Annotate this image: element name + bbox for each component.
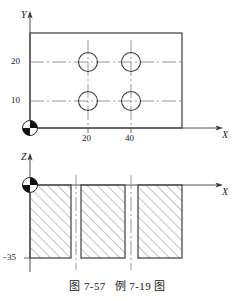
figure-caption: 图 7-57例 7-19 图	[0, 277, 235, 293]
section-view-group	[22, 153, 223, 272]
y-axis-label: Y	[21, 10, 27, 20]
x-tick-40: 40	[125, 134, 134, 143]
x-tick-20: 20	[82, 134, 91, 143]
workpiece-origin-symbol-top	[23, 121, 38, 136]
caption-number: 图 7-57	[69, 280, 105, 292]
section-block-middle	[81, 185, 125, 258]
y-tick-10: 10	[11, 96, 20, 105]
x-axis-label: X	[222, 130, 228, 140]
part-outline-top	[30, 33, 182, 128]
caption-title: 例 7-19 图	[115, 280, 166, 292]
top-view-group	[22, 11, 223, 136]
engineering-figure: Y X 20 10 20 40 Z X −35 图 7-57例 7-19 图	[0, 0, 235, 301]
section-block-left	[30, 185, 71, 258]
section-block-right	[138, 185, 182, 258]
z-tick-minus-35: −35	[2, 253, 16, 262]
technical-drawing	[0, 0, 235, 301]
workpiece-origin-symbol-section	[23, 178, 38, 193]
x-axis-label-section: X	[222, 187, 228, 197]
y-tick-20: 20	[11, 57, 20, 66]
z-axis-label: Z	[21, 152, 27, 162]
